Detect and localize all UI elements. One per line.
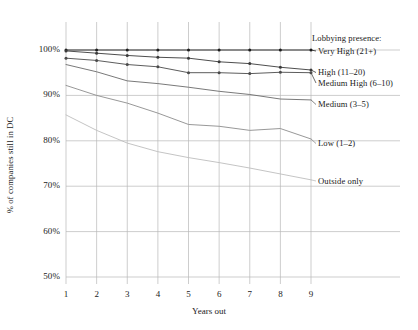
legend-item-label: Medium (3–5) (318, 99, 369, 109)
series-marker (248, 49, 251, 52)
legend-leader-line (311, 73, 316, 83)
series-marker (65, 57, 68, 60)
legend-leader-line (311, 180, 316, 181)
y-axis-title-label: % of companies still in DC (5, 117, 15, 214)
series-marker (218, 71, 221, 74)
legend-item-label: Medium High (6–10) (318, 78, 393, 88)
x-tick-label: 7 (240, 289, 260, 299)
series-marker (248, 62, 251, 65)
series-marker (95, 49, 98, 52)
series-marker (279, 71, 282, 74)
x-tick-label: 6 (209, 289, 229, 299)
series-marker (187, 57, 190, 60)
series-marker (187, 71, 190, 74)
series-marker (187, 49, 190, 52)
series-marker (126, 54, 129, 57)
x-tick-label: 5 (179, 289, 199, 299)
y-tick-label: 50% (20, 271, 60, 281)
series-marker (156, 56, 159, 59)
series-marker (156, 49, 159, 52)
series-marker (95, 52, 98, 55)
x-tick-label: 9 (301, 289, 321, 299)
legend-leader-line (311, 139, 316, 144)
x-tick-label: 2 (87, 289, 107, 299)
y-axis-title: % of companies still in DC (0, 0, 20, 330)
series-marker (156, 65, 159, 68)
y-tick-label: 60% (20, 226, 60, 236)
x-tick-label: 1 (56, 289, 76, 299)
line-chart: % of companies still in DC 50%60%70%80%9… (0, 0, 418, 330)
x-axis-title: Years out (0, 306, 418, 316)
y-tick-label: 100% (20, 44, 60, 54)
legend-item-label: Very High (21+) (318, 46, 376, 56)
series-marker (279, 49, 282, 52)
series-marker (218, 60, 221, 63)
series-marker (126, 49, 129, 52)
x-axis-title-label: Years out (192, 306, 226, 316)
y-tick-label: 90% (20, 89, 60, 99)
x-tick-label: 4 (148, 289, 168, 299)
legend-heading: Lobbying presence: (312, 33, 382, 43)
series-marker (279, 66, 282, 69)
y-tick-label: 80% (20, 135, 60, 145)
series-marker (248, 72, 251, 75)
x-tick-label: 3 (117, 289, 137, 299)
legend-item-label: Outside only (318, 176, 363, 186)
series-marker (218, 49, 221, 52)
legend-item-label: Low (1–2) (318, 138, 355, 148)
series-marker (65, 49, 68, 52)
series-marker (95, 59, 98, 62)
legend-item-label: High (11–20) (318, 67, 365, 77)
y-tick-label: 70% (20, 180, 60, 190)
legend-leader-line (311, 100, 316, 105)
x-tick-label: 8 (270, 289, 290, 299)
series-marker (126, 63, 129, 66)
